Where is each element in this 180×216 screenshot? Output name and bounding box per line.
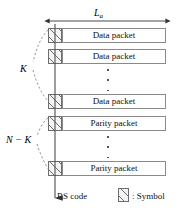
packet-label: Data packet xyxy=(93,52,136,61)
symbol-cell xyxy=(48,94,62,109)
packet-box: Parity packet xyxy=(62,161,166,176)
rs-code-label: RS code xyxy=(57,192,87,201)
packet-box: Data packet xyxy=(62,49,166,64)
packet-label: Data packet xyxy=(93,31,136,40)
packet-row: Parity packet xyxy=(48,161,166,176)
symbol-cell xyxy=(48,161,62,176)
ellipsis-dot xyxy=(107,90,109,92)
symbol-cell xyxy=(48,28,62,43)
packet-box: Parity packet xyxy=(62,116,166,131)
legend-symbol-label: : Symbol xyxy=(132,192,165,201)
ellipsis-dot xyxy=(107,157,109,159)
vertical-ellipsis-data xyxy=(103,69,113,91)
packet-label: Parity packet xyxy=(90,164,137,173)
packet-row: Data packet xyxy=(48,49,166,64)
brace-label-k: K xyxy=(20,64,27,74)
packet-row: Data packet xyxy=(48,28,166,43)
legend-symbol-swatch xyxy=(118,188,129,202)
packet-label: Data packet xyxy=(93,97,136,106)
brace-label-n-minus-k: N − K xyxy=(6,135,31,145)
packet-box: Data packet xyxy=(62,28,166,43)
symbol-cell xyxy=(48,116,62,131)
figure-canvas: La Data packet Data packet Data packet P… xyxy=(0,0,180,216)
dimension-label-subscript: a xyxy=(100,12,104,20)
vertical-ellipsis-parity xyxy=(103,136,113,158)
packet-box: Data packet xyxy=(62,94,166,109)
packet-row: Parity packet xyxy=(48,116,166,131)
packet-label: Parity packet xyxy=(90,119,137,128)
ellipsis-dot xyxy=(107,146,109,148)
symbol-cell xyxy=(48,49,62,64)
brace-k-dashed xyxy=(33,30,48,101)
dimension-label-la: La xyxy=(94,8,103,20)
packet-row: Data packet xyxy=(48,94,166,109)
ellipsis-dot xyxy=(107,136,109,138)
ellipsis-dot xyxy=(107,69,109,71)
ellipsis-dot xyxy=(107,79,109,81)
